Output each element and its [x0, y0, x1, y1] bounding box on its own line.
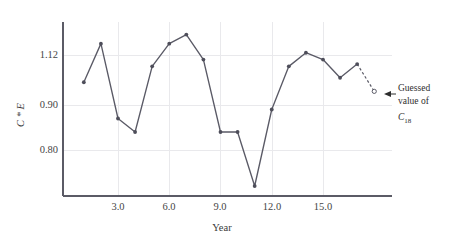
data-point — [253, 184, 257, 188]
x-tick-label-6.0: 6.0 — [162, 201, 175, 212]
data-point-guessed — [372, 89, 376, 93]
data-point — [99, 42, 103, 46]
data-point — [304, 51, 308, 55]
data-point — [338, 76, 342, 80]
annotation-line-1: Guessed — [398, 83, 430, 93]
line-chart-svg: 1.12 0.90 0.80 3.0 6.0 9.0 12.0 15.0 Yea… — [0, 0, 454, 245]
y-axis-title: C * E — [15, 102, 26, 127]
data-point — [150, 64, 154, 68]
data-point — [202, 58, 206, 62]
x-tick-label-3.0: 3.0 — [111, 201, 124, 212]
data-point — [219, 130, 223, 134]
data-point — [167, 42, 171, 46]
x-axis-title: Year — [212, 222, 232, 233]
annotation-symbol-sub: 18 — [404, 117, 412, 125]
annotation-symbol: C18 — [398, 112, 412, 125]
data-point — [321, 58, 325, 62]
y-tick-label-1.12: 1.12 — [40, 49, 58, 60]
annotation-arrow-icon — [384, 91, 396, 97]
gridlines — [63, 22, 392, 196]
x-tick-label-9.0: 9.0 — [213, 201, 226, 212]
data-line-dashed-guess — [357, 64, 374, 91]
chart-figure: 1.12 0.90 0.80 3.0 6.0 9.0 12.0 15.0 Yea… — [0, 0, 454, 245]
data-point — [287, 64, 291, 68]
y-tick-label-0.90: 0.90 — [40, 99, 58, 110]
x-tick-label-12.0: 12.0 — [263, 201, 281, 212]
data-point — [184, 33, 188, 37]
data-point — [116, 117, 120, 121]
data-point — [133, 130, 137, 134]
data-markers — [82, 33, 376, 188]
data-point — [82, 80, 86, 84]
data-point — [270, 108, 274, 112]
annotation-line-2: value of — [398, 96, 430, 106]
data-line — [84, 35, 357, 186]
data-point — [355, 62, 359, 66]
x-tick-label-15.0: 15.0 — [314, 201, 332, 212]
y-tick-label-0.80: 0.80 — [40, 144, 58, 155]
data-point — [236, 130, 240, 134]
